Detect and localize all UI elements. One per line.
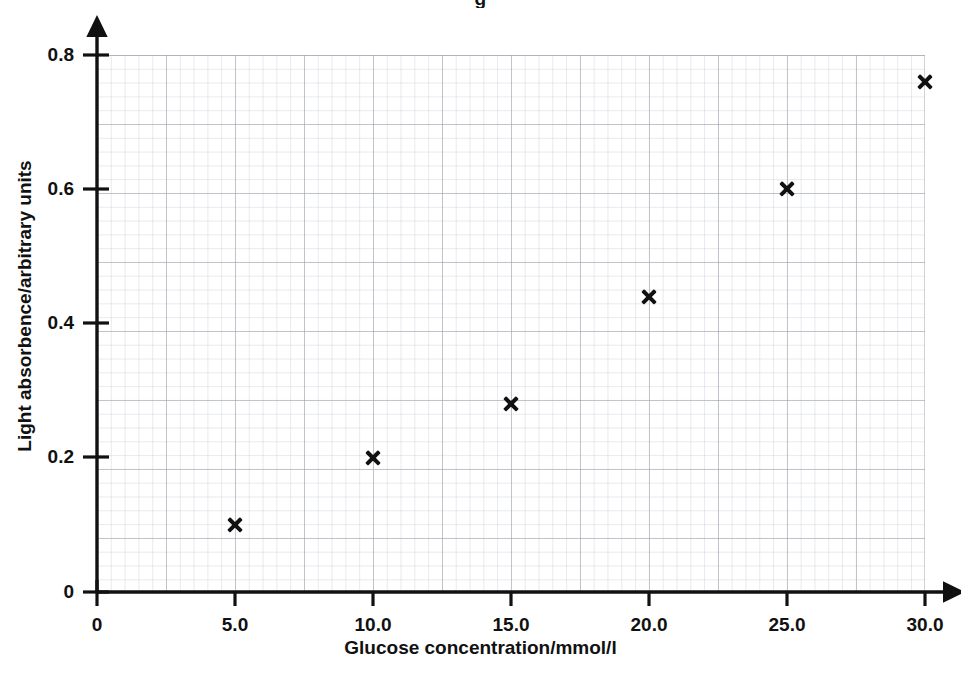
y-axis-title: Light absorbence/arbitrary units bbox=[10, 0, 40, 612]
x-tick-label-30: 30.0 bbox=[907, 614, 944, 636]
axes-layer bbox=[0, 0, 961, 673]
x-tick-label-10: 10.0 bbox=[355, 614, 392, 636]
x-tick-label-0: 0 bbox=[92, 614, 103, 636]
x-tick-label-5: 5.0 bbox=[222, 614, 248, 636]
x-tick-label-15: 15.0 bbox=[493, 614, 530, 636]
x-axis-title: Glucose concentration/mmol/l bbox=[0, 637, 961, 659]
x-tick-label-25: 25.0 bbox=[769, 614, 806, 636]
scatter-chart-figure: g 0 bbox=[0, 0, 961, 673]
y-axis-title-text: Light absorbence/arbitrary units bbox=[14, 160, 36, 451]
x-tick-label-20: 20.0 bbox=[631, 614, 668, 636]
